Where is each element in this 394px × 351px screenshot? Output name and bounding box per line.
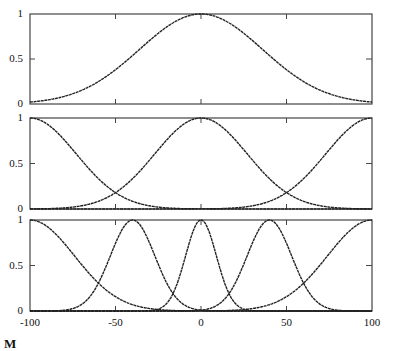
x-tick-label: 0	[198, 317, 204, 328]
curve-gaussian-center-100	[30, 118, 372, 209]
curve-gaussian-center-0	[30, 14, 372, 102]
y-tick-label-1: 1	[18, 112, 24, 123]
x-tick-label: 50	[281, 317, 292, 328]
panel-3	[30, 220, 372, 311]
y-tick-label-0-5: 0.5	[9, 260, 23, 271]
panel-1	[30, 14, 372, 104]
plot-frame	[30, 118, 372, 209]
curve-gaussian-center-100	[30, 220, 372, 311]
y-tick-label-0: 0	[18, 98, 24, 109]
curve-gaussian-center-minus40	[30, 220, 372, 311]
x-tick-label: -100	[20, 317, 40, 328]
x-tick-label: 100	[364, 317, 381, 328]
curve-gaussian-center-40	[30, 220, 372, 311]
y-tick-label-0: 0	[18, 305, 24, 316]
curve-gaussian-center-0	[30, 118, 372, 209]
curve-gaussian-center-0	[30, 220, 372, 311]
panel-2	[30, 118, 372, 209]
y-tick-label-1: 1	[18, 214, 24, 225]
y-tick-label-0-5: 0.5	[9, 53, 23, 64]
y-tick-label-1: 1	[18, 8, 24, 19]
plot-frame	[30, 220, 372, 311]
x-tick-label: -50	[108, 317, 123, 328]
cropped-text-fragment: M	[4, 338, 16, 349]
curve-gaussian-center-minus100	[30, 220, 372, 311]
y-tick-label-0-5: 0.5	[9, 158, 23, 169]
curve-gaussian-center-minus100	[30, 118, 372, 209]
